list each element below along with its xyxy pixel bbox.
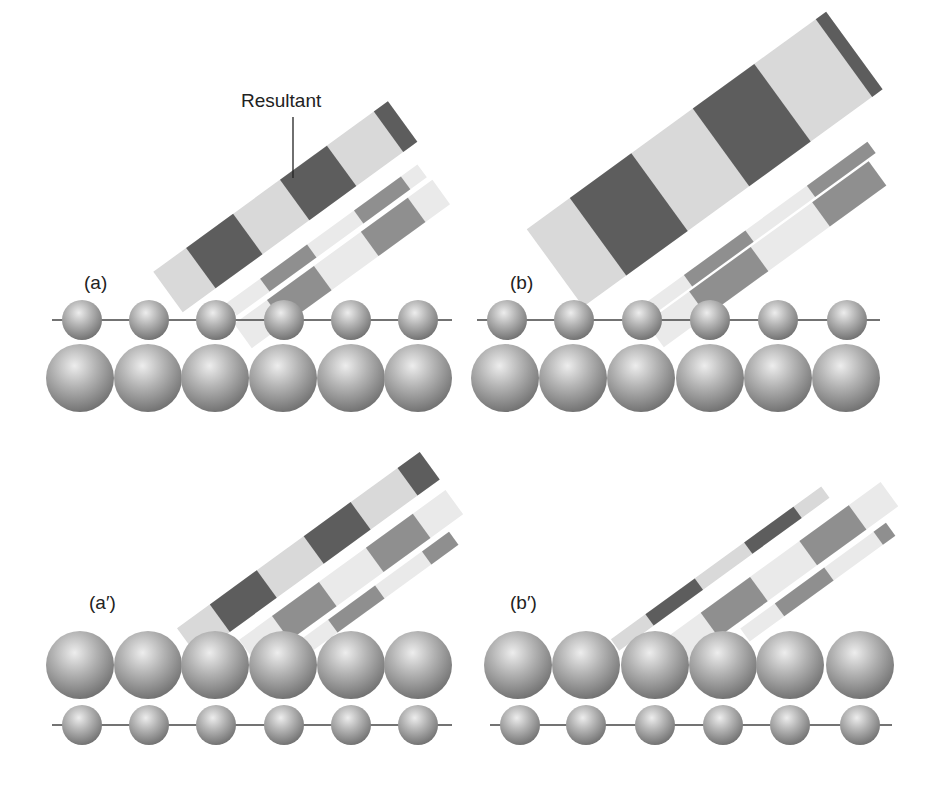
panel-label-b-prime: (b′): [510, 592, 537, 613]
panel-a: (a): [46, 101, 452, 412]
atom-sphere: [840, 705, 880, 745]
small-atom-row: [490, 705, 892, 745]
atom-sphere: [635, 705, 675, 745]
atom-sphere: [826, 631, 894, 699]
atom-sphere: [46, 631, 114, 699]
atom-sphere: [196, 300, 236, 340]
atom-sphere: [264, 705, 304, 745]
atom-sphere: [607, 344, 675, 412]
atom-sphere: [181, 631, 249, 699]
atom-sphere: [384, 344, 452, 412]
atom-sphere: [46, 344, 114, 412]
atom-sphere: [756, 631, 824, 699]
atom-sphere: [129, 705, 169, 745]
atom-sphere: [622, 300, 662, 340]
panel-label-a: (a): [84, 272, 107, 293]
atom-sphere: [744, 344, 812, 412]
atom-sphere: [827, 300, 867, 340]
resultant-label: Resultant: [241, 90, 322, 111]
large-atom-row: [46, 344, 452, 412]
atom-sphere: [249, 344, 317, 412]
panel-a-prime: (a′): [46, 452, 463, 745]
atom-sphere: [621, 631, 689, 699]
atom-sphere: [62, 300, 102, 340]
atom-sphere: [398, 705, 438, 745]
atom-sphere: [331, 300, 371, 340]
atom-sphere: [566, 705, 606, 745]
atom-sphere: [317, 344, 385, 412]
atom-sphere: [264, 300, 304, 340]
atom-sphere: [676, 344, 744, 412]
atom-sphere: [398, 300, 438, 340]
atom-sphere: [384, 631, 452, 699]
atom-sphere: [114, 631, 182, 699]
atom-sphere: [129, 300, 169, 340]
atom-sphere: [689, 631, 757, 699]
atom-sphere: [770, 705, 810, 745]
atom-sphere: [471, 344, 539, 412]
atom-sphere: [62, 705, 102, 745]
atom-sphere: [812, 344, 880, 412]
atom-sphere: [181, 344, 249, 412]
panel-label-a-prime: (a′): [89, 592, 116, 613]
beams: [527, 12, 887, 347]
atom-sphere: [690, 300, 730, 340]
atom-sphere: [196, 705, 236, 745]
atom-sphere: [487, 300, 527, 340]
diffraction-figure: (a) (b) (a′) (b′) Resultant: [0, 0, 931, 788]
panel-b: (b): [471, 12, 886, 412]
atom-sphere: [539, 344, 607, 412]
atom-sphere: [484, 631, 552, 699]
panel-b-prime: (b′): [484, 482, 898, 745]
atom-sphere: [554, 300, 594, 340]
atom-sphere: [500, 705, 540, 745]
small-atom-row: [52, 705, 452, 745]
atom-sphere: [114, 344, 182, 412]
panel-label-b: (b): [510, 272, 533, 293]
atom-sphere: [758, 300, 798, 340]
atom-sphere: [317, 631, 385, 699]
atom-sphere: [249, 631, 317, 699]
atom-sphere: [552, 631, 620, 699]
atom-sphere: [703, 705, 743, 745]
atom-sphere: [331, 705, 371, 745]
large-atom-row: [471, 344, 880, 412]
